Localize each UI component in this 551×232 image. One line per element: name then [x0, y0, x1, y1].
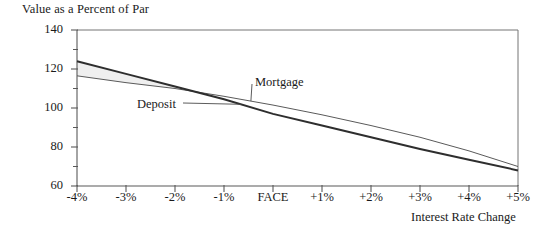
leader-line-mortgage [251, 84, 252, 101]
x-tick-label: +2% [349, 190, 393, 205]
x-tick-label: +4% [447, 190, 491, 205]
x-tick-label: -3% [104, 190, 148, 205]
y-tick-label: 120 [29, 61, 63, 76]
x-tick-label: -1% [202, 190, 246, 205]
series-label-deposit: Deposit [137, 97, 176, 112]
x-tick-label: +5% [496, 190, 540, 205]
chart-figure: Value as a Percent of Par 6080100120140 … [0, 0, 551, 232]
series-label-mortgage: Mortgage [255, 75, 304, 90]
x-tick-label: -4% [55, 190, 99, 205]
y-tick-label: 100 [29, 100, 63, 115]
y-tick-label: 140 [29, 22, 63, 37]
x-tick-label: FACE [251, 190, 295, 205]
x-tick-label: +1% [300, 190, 344, 205]
x-tick-label: +3% [398, 190, 442, 205]
leader-line-deposit [183, 103, 241, 104]
x-axis-title: Interest Rate Change [411, 210, 516, 225]
y-tick-label: 80 [29, 139, 63, 154]
x-tick-label: -2% [153, 190, 197, 205]
